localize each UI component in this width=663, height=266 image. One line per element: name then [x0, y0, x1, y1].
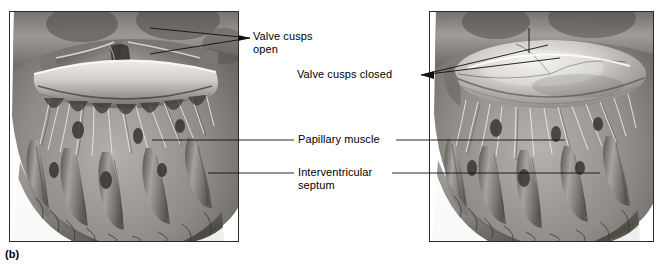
- anatomy-figure: Valve cuspsopen Valve cusps closed Papil…: [0, 0, 663, 266]
- valve-open-illustration: [10, 12, 238, 241]
- label-interventricular-septum-line1: Interventricular: [298, 166, 372, 178]
- label-valve-cusps-open: Valve cuspsopen: [253, 30, 313, 56]
- label-valve-cusps-open-line1: Valve cusps: [253, 30, 313, 42]
- label-interventricular-septum: Interventricularseptum: [298, 166, 372, 192]
- label-papillary-muscle: Papillary muscle: [298, 133, 380, 146]
- label-interventricular-septum-line2: septum: [298, 179, 335, 191]
- panel-valve-closed: [429, 11, 654, 242]
- label-valve-cusps-open-line2: open: [253, 43, 278, 55]
- valve-cusps-closed: [454, 40, 646, 108]
- label-valve-cusps-closed-line1: Valve cusps closed: [297, 68, 392, 80]
- label-valve-cusps-closed: Valve cusps closed: [297, 68, 392, 81]
- figure-caption: (b): [5, 248, 19, 260]
- label-papillary-muscle-line1: Papillary muscle: [298, 133, 380, 145]
- valve-closed-illustration: [430, 12, 653, 241]
- panel-valve-open: [9, 11, 239, 242]
